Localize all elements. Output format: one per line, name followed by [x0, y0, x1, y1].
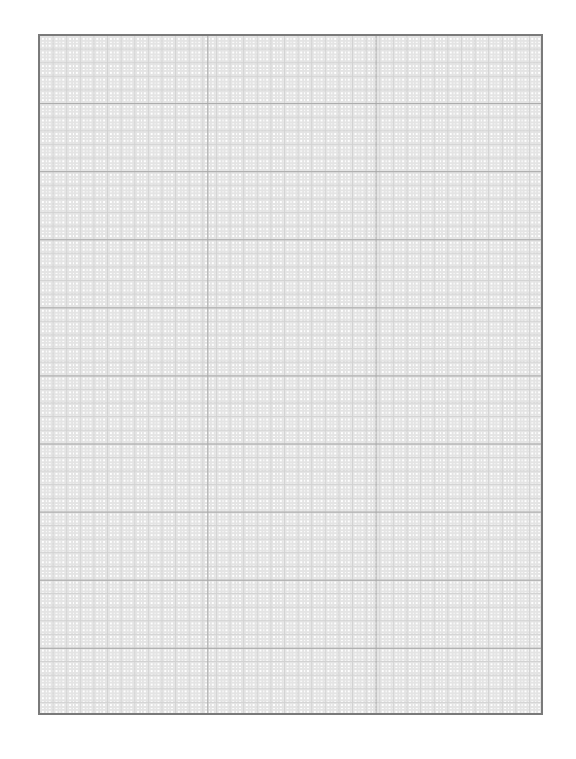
graph-paper-sheet: graph-paper [38, 34, 543, 715]
